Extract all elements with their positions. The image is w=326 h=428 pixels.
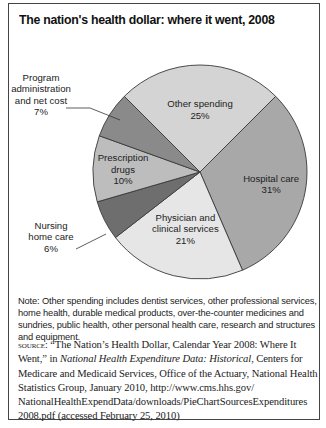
slice-name-label: Other spending — [167, 98, 233, 109]
slice-name-label: home care — [28, 231, 73, 242]
slice-name-label: administration — [11, 83, 71, 94]
slice-name-label: Hospital care — [243, 173, 299, 184]
slice-name-label: clinical services — [152, 223, 219, 234]
slice-name-label: Physician and — [155, 212, 215, 223]
pie-chart: Hospital care31%Physician andclinical se… — [0, 0, 326, 300]
slice-name-label: Nursing — [34, 220, 67, 231]
slice-value-label: 6% — [44, 243, 58, 254]
source-prefix: Source: — [18, 339, 48, 350]
slice-name-label: and net cost — [15, 95, 68, 106]
chart-source: Source: “The Nation’s Health Dollar, Cal… — [18, 338, 318, 424]
slice-value-label: 7% — [34, 106, 48, 117]
chart-note: Note: Other spending includes dentist se… — [18, 295, 318, 343]
source-publication: National Health Expenditure Data: Histor… — [60, 353, 251, 364]
slice-name-label: Program — [23, 72, 60, 83]
slice-label: Nursinghome care6% — [28, 220, 73, 254]
slice-name-label: drugs — [111, 164, 135, 175]
leader-line — [76, 234, 106, 249]
slice-name-label: Prescription — [98, 152, 149, 163]
slice-value-label: 10% — [113, 175, 133, 186]
slice-value-label: 31% — [262, 184, 282, 195]
slice-label: Programadministrationand net cost7% — [11, 72, 71, 118]
slice-value-label: 21% — [176, 235, 196, 246]
slice-value-label: 25% — [190, 110, 210, 121]
